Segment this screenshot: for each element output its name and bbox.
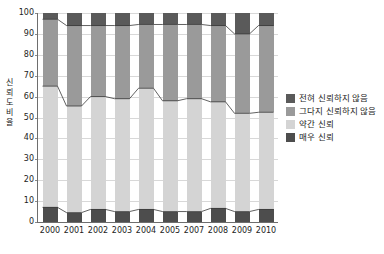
plot-area [38, 13, 278, 222]
legend-item[interactable]: 약간 신뢰 [286, 118, 382, 130]
y-tick-label: 100 [14, 9, 34, 17]
x-axis-line [37, 222, 278, 223]
legend-color-swatch-icon [286, 120, 295, 129]
bar-segment [187, 13, 202, 24]
bar-segment [139, 209, 154, 222]
legend-item-label: 전혀 신뢰하지 않음 [299, 93, 368, 103]
y-tick-label: 50 [14, 114, 34, 122]
bar-segment [67, 26, 82, 106]
bar-segment [139, 13, 154, 24]
bar-segment [43, 207, 58, 222]
bar-group [163, 13, 178, 222]
bar-segment [259, 112, 274, 209]
y-tick-label: 70 [14, 72, 34, 80]
bar-segment [43, 19, 58, 86]
bar-segment [115, 26, 130, 99]
bar-segment [211, 26, 226, 102]
bar-segment [115, 13, 130, 26]
bar-segment [91, 97, 106, 210]
bar-segment [211, 13, 226, 26]
bar-segment [187, 212, 202, 222]
x-tick-label: 2010 [251, 226, 281, 235]
legend-color-swatch-icon [286, 107, 295, 116]
y-tick-label: 30 [14, 155, 34, 163]
bar-segment [139, 24, 154, 88]
legend-color-swatch-icon [286, 133, 295, 142]
bar-segment [259, 26, 274, 113]
legend-item-label: 그다지 신뢰하지 않음 [299, 106, 376, 116]
bar-group [139, 13, 154, 222]
y-tick-label: 60 [14, 93, 34, 101]
bar-segment [91, 209, 106, 222]
bar-segment [259, 209, 274, 222]
legend-item[interactable]: 매우 신뢰 [286, 131, 382, 143]
legend-color-swatch-icon [286, 94, 295, 103]
bar-segment [259, 13, 274, 26]
bar-segment [43, 13, 58, 19]
bar-segment [163, 24, 178, 100]
chart-legend: 전혀 신뢰하지 않음그다지 신뢰하지 않음약간 신뢰매우 신뢰 [286, 92, 382, 144]
bar-group [67, 13, 82, 222]
legend-item-label: 매우 신뢰 [299, 132, 334, 142]
y-tick-label: 10 [14, 197, 34, 205]
bar-segment [115, 99, 130, 212]
y-tick-label: 0 [14, 218, 34, 226]
bar-segment [187, 24, 202, 98]
bar-segment [235, 113, 250, 211]
bar-segment [163, 212, 178, 222]
bar-segment [163, 13, 178, 24]
bar-segment [91, 13, 106, 26]
bar-segment [67, 106, 82, 213]
bar-segment [187, 99, 202, 212]
y-tick-label: 90 [14, 30, 34, 38]
bar-group [91, 13, 106, 222]
bar-segment [211, 208, 226, 222]
bar-group [259, 13, 274, 222]
bar-group [211, 13, 226, 222]
bar-segment [67, 213, 82, 222]
bar-segment [211, 102, 226, 209]
bar-segment [67, 13, 82, 26]
bar-segment [91, 26, 106, 97]
y-tick-label: 80 [14, 51, 34, 59]
bar-segment [163, 101, 178, 212]
y-tick-label: 20 [14, 176, 34, 184]
bar-segment [43, 86, 58, 207]
bar-segment [115, 212, 130, 222]
bar-segment [139, 88, 154, 209]
stacked-bar-chart: 신 뢰 도 비 율 0102030405060708090100 2000200… [0, 0, 384, 254]
y-tick-label: 40 [14, 134, 34, 142]
bar-segment [235, 13, 250, 34]
bar-group [235, 13, 250, 222]
bar-group [115, 13, 130, 222]
bar-segment [235, 212, 250, 222]
legend-item[interactable]: 전혀 신뢰하지 않음 [286, 92, 382, 104]
legend-item[interactable]: 그다지 신뢰하지 않음 [286, 105, 382, 117]
bar-group [187, 13, 202, 222]
bar-group [43, 13, 58, 222]
legend-item-label: 약간 신뢰 [299, 119, 334, 129]
bar-segment [235, 34, 250, 113]
